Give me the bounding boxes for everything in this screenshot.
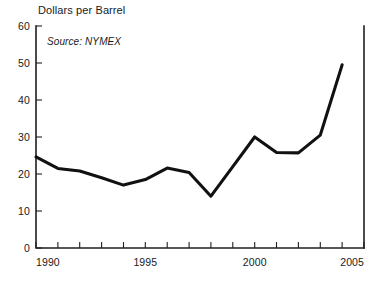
oil-price-line-chart: Dollars per Barrel Source: NYMEX 0 10 20…	[0, 0, 383, 281]
x-tick-label-1995: 1995	[133, 256, 157, 268]
y-tick-label-60: 60	[18, 20, 30, 32]
x-axis-tick-labels: 1990 1995 2000 2005	[36, 256, 364, 268]
y-tick-label-0: 0	[24, 242, 30, 254]
price-line-series	[36, 65, 342, 196]
y-tick-label-40: 40	[18, 94, 30, 106]
y-tick-label-30: 30	[18, 131, 30, 143]
chart-title: Dollars per Barrel	[38, 4, 125, 16]
y-tick-label-20: 20	[18, 168, 30, 180]
y-tick-label-10: 10	[18, 205, 30, 217]
y-axis-tick-labels: 0 10 20 30 40 50 60	[18, 20, 30, 254]
x-tick-label-2005: 2005	[340, 256, 364, 268]
chart-figure: Dollars per Barrel Source: NYMEX 0 10 20…	[0, 0, 383, 281]
x-tick-label-2000: 2000	[243, 256, 267, 268]
y-axis-ticks	[36, 26, 42, 248]
y-tick-label-50: 50	[18, 57, 30, 69]
chart-source-note: Source: NYMEX	[47, 36, 121, 47]
axis-frame	[36, 26, 364, 248]
x-tick-label-1990: 1990	[36, 256, 60, 268]
x-axis-ticks	[36, 242, 364, 248]
